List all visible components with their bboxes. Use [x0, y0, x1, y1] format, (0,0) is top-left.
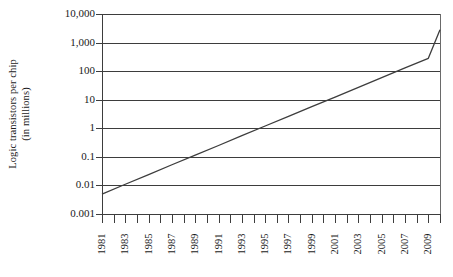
x-tick-mark	[393, 214, 394, 223]
x-tick-mark	[114, 214, 115, 223]
y-tick-mark	[96, 157, 102, 158]
x-tick-label: 1991	[213, 224, 225, 264]
x-tick-mark	[288, 214, 289, 223]
y-axis-title-line2: (in millions)	[19, 59, 32, 169]
y-tick-mark	[96, 100, 102, 101]
x-tick-mark	[102, 214, 103, 223]
x-tick-label: 1985	[143, 224, 155, 264]
plot-right-border	[440, 14, 441, 214]
y-tick-mark	[96, 43, 102, 44]
y-tick-mark	[96, 71, 102, 72]
x-tick-mark	[358, 214, 359, 223]
y-axis-title-text: Logic transistors per chip (in millions)	[7, 59, 32, 169]
data-line-logic-transistors	[102, 30, 440, 194]
data-series-svg	[102, 14, 440, 214]
y-tick-label: 0.1	[81, 151, 95, 162]
x-tick-mark	[323, 214, 324, 223]
chart-figure: Logic transistors per chip (in millions)…	[0, 0, 453, 277]
x-tick-mark	[312, 214, 313, 223]
x-tick-mark	[335, 214, 336, 223]
x-tick-label: 1983	[119, 224, 131, 264]
y-tick-mark	[96, 14, 102, 15]
x-tick-mark	[125, 214, 126, 223]
x-tick-label: 1987	[166, 224, 178, 264]
y-tick-mark	[96, 185, 102, 186]
y-tick-label: 10	[84, 94, 95, 105]
x-tick-label: 2007	[399, 224, 411, 264]
x-tick-mark	[417, 214, 418, 223]
x-tick-label: 1995	[259, 224, 271, 264]
gridline	[102, 214, 440, 215]
x-tick-label: 2005	[376, 224, 388, 264]
x-tick-label: 1989	[189, 224, 201, 264]
y-axis-title: Logic transistors per chip (in millions)	[2, 14, 36, 214]
x-tick-mark	[428, 214, 429, 223]
x-tick-mark	[265, 214, 266, 223]
x-tick-label: 1997	[282, 224, 294, 264]
x-tick-mark	[382, 214, 383, 223]
x-tick-label: 2009	[422, 224, 434, 264]
figure-caption	[30, 271, 430, 277]
x-tick-label: 2001	[329, 224, 341, 264]
x-tick-mark	[230, 214, 231, 223]
x-tick-mark	[254, 214, 255, 223]
x-tick-label: 1981	[96, 224, 108, 264]
y-axis-title-line1: Logic transistors per chip	[7, 59, 18, 169]
x-tick-mark	[160, 214, 161, 223]
x-tick-mark	[242, 214, 243, 223]
x-tick-mark	[300, 214, 301, 223]
x-tick-mark	[219, 214, 220, 223]
x-tick-mark	[277, 214, 278, 223]
x-tick-mark	[137, 214, 138, 223]
x-tick-label: 1993	[236, 224, 248, 264]
x-tick-mark	[149, 214, 150, 223]
plot-area	[102, 14, 440, 214]
y-axis-tick-labels: 10,0001,0001001010.10.010.001	[38, 14, 95, 214]
x-tick-label: 1999	[306, 224, 318, 264]
x-tick-mark	[184, 214, 185, 223]
y-tick-label: 10,000	[65, 8, 95, 19]
x-tick-mark	[172, 214, 173, 223]
x-tick-mark	[370, 214, 371, 223]
y-tick-label: 0.01	[76, 179, 95, 190]
y-tick-label: 1,000	[70, 37, 95, 48]
y-tick-label: 1	[90, 122, 96, 133]
x-axis-tick-labels: 1981198319851987198919911993199519971999…	[102, 224, 440, 264]
x-tick-label: 2003	[352, 224, 364, 264]
y-tick-label: 100	[79, 65, 96, 76]
x-tick-mark	[405, 214, 406, 223]
y-tick-mark	[96, 214, 102, 215]
x-tick-mark	[207, 214, 208, 223]
y-tick-mark	[96, 128, 102, 129]
x-tick-mark	[195, 214, 196, 223]
y-tick-label: 0.001	[70, 208, 95, 219]
x-tick-mark	[347, 214, 348, 223]
x-tick-mark	[440, 214, 441, 223]
